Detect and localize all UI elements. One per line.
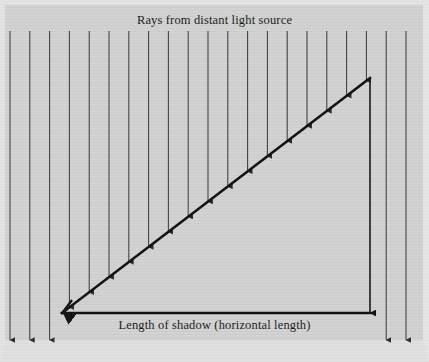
hypotenuse-ray-line [62, 78, 370, 313]
figure-title: Rays from distant light source [0, 13, 429, 28]
figure-container: Rays from distant light source Length of… [0, 0, 429, 362]
baseline-axis-label: Length of shadow (horizontal length) [0, 318, 429, 333]
diagram-canvas [0, 0, 429, 362]
shadow-triangle-group [62, 78, 370, 313]
light-rays-group [10, 31, 406, 340]
